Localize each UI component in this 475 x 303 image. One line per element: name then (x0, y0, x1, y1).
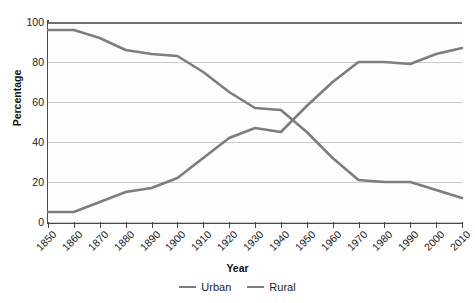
y-tick-label-100: 100 (10, 17, 44, 27)
series-lines (48, 22, 462, 222)
x-tick-label-2010: 2010 (443, 228, 473, 258)
legend-label: Rural (269, 281, 295, 293)
chart-legend: UrbanRural (0, 281, 475, 293)
x-tick-label-1980: 1980 (365, 228, 395, 258)
legend-label: Urban (201, 281, 231, 293)
legend-item-rural[interactable]: Rural (247, 281, 295, 293)
x-tick-label-1920: 1920 (210, 228, 240, 258)
x-tick-label-1900: 1900 (158, 228, 188, 258)
series-line-urban (48, 48, 462, 212)
legend-swatch-icon (247, 286, 264, 289)
x-tick-label-1890: 1890 (132, 228, 162, 258)
plot-area (48, 22, 462, 222)
legend-swatch-icon (179, 286, 196, 289)
x-tick-label-1970: 1970 (339, 228, 369, 258)
x-tick-label-1910: 1910 (184, 228, 214, 258)
x-tick-label-1990: 1990 (391, 228, 421, 258)
x-tick-label-1860: 1860 (55, 228, 85, 258)
x-tick-label-1850: 1850 (29, 228, 59, 258)
x-tick-label-1870: 1870 (81, 228, 111, 258)
x-tick-label-1960: 1960 (313, 228, 343, 258)
y-tick-label-0: 0 (10, 217, 44, 227)
x-tick-label-2000: 2000 (417, 228, 447, 258)
x-axis-title: Year (0, 262, 475, 274)
x-tick-label-1950: 1950 (288, 228, 318, 258)
y-tick-label-20: 20 (10, 177, 44, 187)
x-tick-label-1930: 1930 (236, 228, 266, 258)
x-tick-label-1940: 1940 (262, 228, 292, 258)
series-line-rural (48, 30, 462, 198)
chart-container: Percentage 100806040200 1850186018701880… (0, 0, 475, 303)
y-tick-label-80: 80 (10, 57, 44, 67)
y-tick-label-60: 60 (10, 97, 44, 107)
y-tick-label-40: 40 (10, 137, 44, 147)
x-tick-label-1880: 1880 (106, 228, 136, 258)
legend-item-urban[interactable]: Urban (179, 281, 231, 293)
